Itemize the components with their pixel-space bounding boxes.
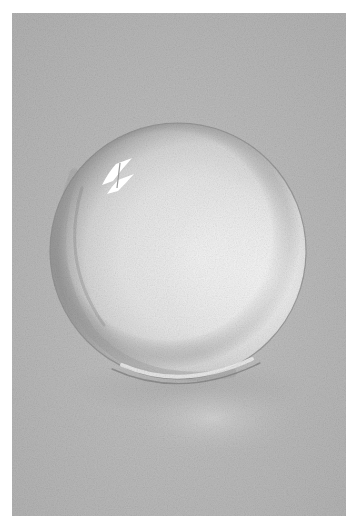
- glass-sphere-drawing: [12, 13, 346, 516]
- image-description: Pencil drawing of a glass sphere on gray…: [0, 0, 1, 1]
- drawing-paper: [12, 13, 346, 516]
- light-caustic: [127, 378, 297, 458]
